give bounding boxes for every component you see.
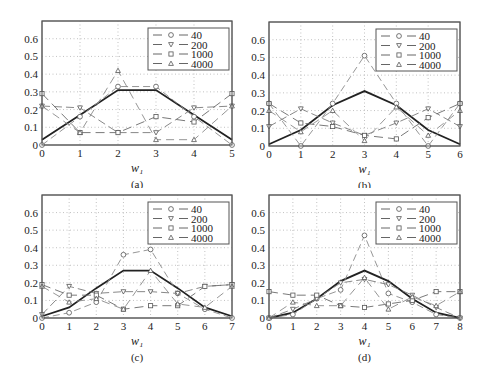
x-tick-label: 4 bbox=[148, 320, 154, 332]
chart-d: 00.10.20.30.40.50.6012345678w₁(d)4020010… bbox=[241, 188, 482, 377]
legend-1000-marker bbox=[397, 226, 401, 230]
x-axis-label: w₁ bbox=[131, 161, 143, 175]
legend-label: 4000 bbox=[191, 232, 214, 244]
series-1000-marker bbox=[148, 304, 152, 308]
x-axis-label: w₁ bbox=[358, 334, 370, 348]
x-tick-label: 4 bbox=[362, 320, 368, 332]
x-tick-label: 0 bbox=[39, 320, 45, 332]
x-tick-label: 0 bbox=[266, 320, 272, 332]
series-40-marker bbox=[148, 247, 153, 252]
series-1000-marker bbox=[362, 133, 366, 137]
y-tick-label: 0.5 bbox=[251, 224, 265, 236]
y-tick-label: 0.3 bbox=[251, 87, 265, 99]
x-tick-label: 3 bbox=[362, 148, 368, 160]
series-40-marker bbox=[338, 287, 343, 292]
series-1000-marker bbox=[203, 284, 207, 288]
series-1000-marker bbox=[331, 124, 335, 128]
subplot-a: 00.10.20.30.40.50.6012345w₁(a)4020010004… bbox=[0, 0, 241, 188]
panel-label: (d) bbox=[358, 351, 371, 364]
legend-40-marker bbox=[169, 207, 174, 212]
series-1000-marker bbox=[291, 293, 295, 297]
legend-label: 4000 bbox=[191, 58, 214, 70]
legend-label: 4000 bbox=[419, 232, 442, 244]
x-tick-label: 5 bbox=[175, 320, 181, 332]
series-1000-marker bbox=[394, 137, 398, 141]
x-tick-label: 3 bbox=[153, 147, 159, 159]
chart-b: 00.10.20.30.40.50.60123456w₁(b)402001000… bbox=[241, 0, 482, 188]
subplot-b: 00.10.20.30.40.50.60123456w₁(b)402001000… bbox=[241, 0, 482, 188]
legend: 4020010004000 bbox=[148, 28, 229, 70]
x-tick-label: 4 bbox=[191, 147, 197, 159]
x-tick-label: 3 bbox=[338, 320, 344, 332]
y-tick-label: 0.1 bbox=[251, 294, 265, 306]
x-axis-label: w₁ bbox=[131, 334, 143, 348]
legend-1000-marker bbox=[397, 53, 401, 57]
x-tick-label: 6 bbox=[457, 148, 463, 160]
panel-label: (b) bbox=[358, 179, 371, 188]
panel-label: (c) bbox=[131, 351, 144, 364]
x-tick-label: 7 bbox=[229, 320, 235, 332]
y-tick-label: 0.2 bbox=[251, 277, 265, 289]
y-tick-label: 0.2 bbox=[24, 104, 38, 116]
series-40-marker bbox=[330, 101, 335, 106]
x-tick-label: 6 bbox=[410, 320, 416, 332]
subplot-d: 00.10.20.30.40.50.6012345678w₁(d)4020010… bbox=[241, 188, 482, 377]
chart-c: 00.10.20.30.40.50.601234567w₁(c)40200100… bbox=[0, 188, 241, 377]
y-tick-label: 0.1 bbox=[251, 122, 265, 134]
x-tick-label: 4 bbox=[394, 148, 400, 160]
series-1000-marker bbox=[299, 121, 303, 125]
y-tick-label: 0 bbox=[33, 312, 39, 324]
series-40-marker bbox=[434, 312, 439, 317]
y-tick-label: 0 bbox=[260, 140, 266, 152]
series-1000-marker bbox=[426, 116, 430, 120]
series-40-marker bbox=[154, 84, 159, 89]
series-1000-marker bbox=[192, 120, 196, 124]
legend-1000-marker bbox=[169, 226, 173, 230]
x-tick-label: 1 bbox=[298, 148, 304, 160]
y-tick-label: 0 bbox=[260, 312, 266, 324]
x-tick-label: 2 bbox=[330, 148, 336, 160]
series-1000-marker bbox=[362, 305, 366, 309]
series-40-marker bbox=[386, 291, 391, 296]
series-1000-marker bbox=[386, 302, 390, 306]
x-tick-label: 5 bbox=[425, 148, 431, 160]
series-40-marker bbox=[290, 312, 295, 317]
y-tick-label: 0.5 bbox=[24, 224, 38, 236]
panel-label: (a) bbox=[131, 178, 144, 188]
y-tick-label: 0.6 bbox=[24, 33, 38, 45]
legend: 4020010004000 bbox=[376, 202, 457, 244]
legend-label: 4000 bbox=[419, 59, 442, 71]
y-tick-label: 0.1 bbox=[24, 294, 38, 306]
x-tick-label: 5 bbox=[386, 320, 392, 332]
legend-40-marker bbox=[397, 34, 402, 39]
y-tick-label: 0 bbox=[33, 139, 39, 151]
series-40-marker bbox=[362, 53, 367, 58]
x-tick-label: 3 bbox=[121, 320, 127, 332]
series-1000-marker bbox=[434, 290, 438, 294]
x-tick-label: 1 bbox=[77, 147, 83, 159]
y-tick-label: 0.4 bbox=[24, 242, 38, 254]
series-40-marker bbox=[78, 114, 83, 119]
y-tick-label: 0.5 bbox=[251, 51, 265, 63]
y-tick-label: 0.6 bbox=[24, 207, 38, 219]
y-tick-label: 0.4 bbox=[251, 69, 265, 81]
y-tick-label: 0.3 bbox=[24, 259, 38, 271]
x-tick-label: 6 bbox=[202, 320, 208, 332]
y-tick-label: 0.6 bbox=[251, 34, 265, 46]
series-1000-marker bbox=[116, 131, 120, 135]
y-tick-label: 0.4 bbox=[24, 68, 38, 80]
x-tick-label: 0 bbox=[39, 147, 45, 159]
series-40-marker bbox=[67, 310, 72, 315]
series-1000-marker bbox=[315, 293, 319, 297]
y-tick-label: 0.1 bbox=[24, 121, 38, 133]
x-tick-label: 5 bbox=[229, 147, 235, 159]
y-tick-label: 0.4 bbox=[251, 242, 265, 254]
series-40-marker bbox=[116, 84, 121, 89]
x-tick-label: 2 bbox=[314, 320, 320, 332]
x-tick-label: 1 bbox=[66, 320, 72, 332]
series-1000-marker bbox=[67, 293, 71, 297]
y-tick-label: 0.3 bbox=[24, 86, 38, 98]
legend-1000-marker bbox=[169, 52, 173, 56]
x-axis-label: w₁ bbox=[358, 162, 370, 176]
x-tick-label: 8 bbox=[457, 320, 463, 332]
